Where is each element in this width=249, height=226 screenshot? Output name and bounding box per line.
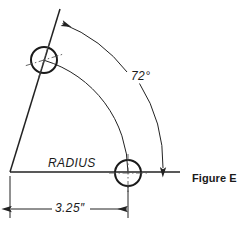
figure-caption: Figure E bbox=[192, 173, 237, 184]
angle-dimension-arc-upper bbox=[63, 24, 128, 73]
radius-label: RADIUS bbox=[48, 157, 96, 169]
angle-dimension-arc-lower bbox=[140, 84, 164, 169]
linear-dimension-label: 3.25″ bbox=[55, 202, 85, 214]
inclined-radius-line bbox=[10, 9, 60, 172]
angle-dimension-label: 72° bbox=[131, 70, 150, 82]
figure-drawing-canvas: RADIUS 72° 3.25″ Figure E bbox=[0, 0, 249, 226]
technical-drawing-svg bbox=[0, 0, 249, 226]
